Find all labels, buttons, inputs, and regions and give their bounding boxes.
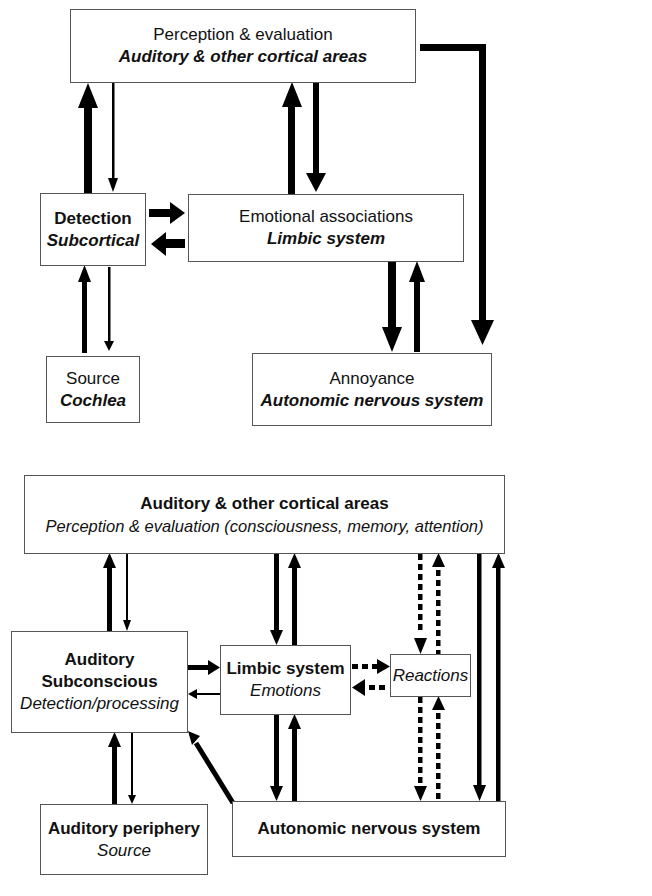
node-title: Limbic system bbox=[226, 658, 344, 680]
node-source: Source Cochlea bbox=[46, 356, 140, 423]
connector-arrows bbox=[0, 0, 652, 896]
node-auditory-subconscious: Auditory Subconscious Detection/processi… bbox=[11, 631, 188, 733]
node-subtitle: Detection/processing bbox=[20, 693, 179, 715]
node-auditory-cortical-areas: Auditory & other cortical areas Percepti… bbox=[24, 475, 505, 554]
node-perception-evaluation: Perception & evaluation Auditory & other… bbox=[70, 9, 416, 83]
node-autonomic-nervous-system: Autonomic nervous system bbox=[232, 801, 506, 857]
node-auditory-periphery: Auditory periphery Source bbox=[40, 804, 208, 875]
node-title: Perception & evaluation bbox=[153, 24, 333, 46]
node-title: Annoyance bbox=[329, 368, 414, 390]
node-title: Source bbox=[66, 368, 120, 390]
node-emotional-associations: Emotional associations Limbic system bbox=[188, 194, 464, 262]
node-title: Auditory periphery bbox=[48, 818, 200, 840]
node-title: Auditory & other cortical areas bbox=[140, 493, 388, 515]
node-subtitle: Perception & evaluation (consciousness, … bbox=[45, 515, 483, 537]
node-title-line2: Subconscious bbox=[41, 671, 157, 693]
node-title: Autonomic nervous system bbox=[258, 818, 481, 840]
node-subtitle: Reactions bbox=[393, 665, 469, 687]
node-reactions: Reactions bbox=[390, 654, 471, 697]
node-detection: Detection Subcortical bbox=[40, 193, 146, 266]
node-subtitle: Cochlea bbox=[60, 390, 126, 412]
node-subtitle: Auditory & other cortical areas bbox=[119, 46, 367, 68]
node-limbic-system: Limbic system Emotions bbox=[220, 645, 351, 715]
node-annoyance: Annoyance Autonomic nervous system bbox=[252, 353, 492, 426]
node-subtitle: Subcortical bbox=[47, 230, 140, 252]
node-title: Detection bbox=[54, 208, 131, 230]
node-subtitle: Limbic system bbox=[267, 228, 385, 250]
node-subtitle: Autonomic nervous system bbox=[261, 390, 484, 412]
node-title-line1: Auditory bbox=[65, 649, 135, 671]
node-title: Emotional associations bbox=[239, 206, 413, 228]
node-subtitle: Emotions bbox=[250, 680, 321, 702]
node-subtitle: Source bbox=[97, 840, 151, 862]
